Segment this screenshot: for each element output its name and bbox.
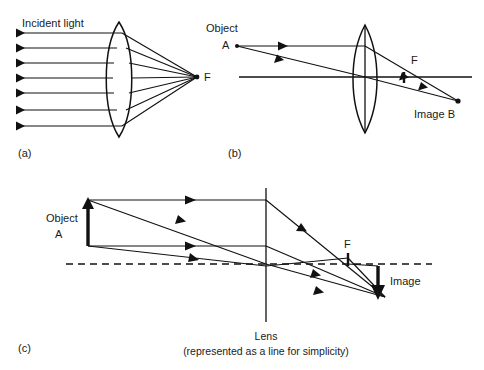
panel-b-ray2-out (365, 77, 458, 101)
panel-c-object-arrow (82, 197, 94, 246)
panel-c-focus-label: F (344, 238, 351, 250)
panel-b-object-point (235, 44, 239, 48)
incident-light-label: Incident light (22, 17, 84, 29)
panel-c-object-label: Object (46, 212, 78, 224)
panel-a-id: (a) (18, 147, 31, 159)
panel-c-lens-note: (represented as a line for simplicity) (183, 345, 349, 357)
panel-b-image-point (455, 98, 460, 103)
panel-c-ray3-out (266, 246, 385, 297)
panel-a-focus-label: F (204, 71, 211, 83)
figure-canvas: Incident light F (a) (0, 0, 484, 370)
panel-c-ray4-out (266, 258, 348, 266)
panel-c-ray1-out (266, 200, 385, 297)
panel-c-ray2-out (266, 264, 385, 297)
panel-b-object-label: Object (206, 22, 238, 34)
panel-c-ray-arrowheads (175, 196, 324, 296)
panel-c-ray2-in (88, 200, 266, 264)
panel-b-focus-label: F (411, 54, 418, 66)
panel-c-id: (c) (18, 342, 31, 354)
panel-c-lens-label: Lens (255, 330, 278, 342)
panel-c-image-connector (348, 264, 378, 266)
panel-b-ray-arrowheads (274, 42, 428, 91)
optics-figure: Incident light F (a) (0, 0, 484, 370)
panel-a-focal-point (195, 75, 200, 80)
panel-c-ray4-in (88, 246, 266, 266)
panel-b-object-point-label: A (222, 39, 230, 51)
panel-c-object-point-label: A (55, 228, 63, 240)
panel-c-image-label: Image (390, 275, 421, 287)
panel-b-ray2-in (237, 46, 365, 77)
panel-b: Object A F Image B (b) (206, 22, 472, 159)
panel-a-lens (106, 22, 132, 137)
panel-b-image-label: Image B (414, 108, 455, 120)
panel-a: Incident light F (a) (16, 17, 211, 159)
panel-b-id: (b) (228, 147, 241, 159)
panel-a-ray-arrowheads (16, 29, 25, 131)
panel-c: Object A F Image Lens (represented as a … (18, 188, 432, 357)
panel-a-refracted-rays (122, 33, 197, 126)
